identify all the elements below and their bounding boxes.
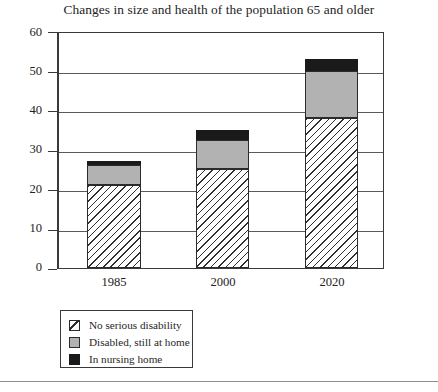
y-axis-tick-mark-40 bbox=[48, 111, 57, 112]
y-axis-tick-mark-50 bbox=[48, 72, 57, 73]
y-axis-tick-mark-30 bbox=[48, 151, 57, 152]
chart-legend: No serious disability Disabled, still at… bbox=[60, 310, 193, 368]
bar-segment-disabled-still-at-home-2020[interactable] bbox=[305, 71, 358, 118]
bar-segment-no-serious-disability-2020[interactable] bbox=[305, 118, 358, 268]
y-axis-tick-label-10: 10 bbox=[2, 221, 42, 236]
y-axis-tick-mark-20 bbox=[48, 190, 57, 191]
legend-item-in-nursing-home[interactable]: In nursing home bbox=[69, 351, 162, 367]
legend-label-no-serious-disability: No serious disability bbox=[89, 319, 182, 331]
bar-stack-2020[interactable] bbox=[305, 59, 358, 268]
y-axis-tick-mark-60 bbox=[48, 32, 57, 33]
gray-swatch-icon bbox=[69, 337, 80, 348]
bar-segment-in-nursing-home-1985[interactable] bbox=[87, 161, 141, 165]
x-axis-tick-label-2020: 2020 bbox=[292, 275, 372, 290]
bar-segment-no-serious-disability-1985[interactable] bbox=[87, 185, 141, 268]
bar-stack-2000[interactable] bbox=[196, 130, 249, 268]
chart-title: Changes in size and health of the popula… bbox=[0, 2, 438, 18]
x-axis-tick-label-1985: 1985 bbox=[74, 275, 154, 290]
y-axis-tick-label-60: 60 bbox=[2, 25, 42, 40]
y-axis-tick-label-30: 30 bbox=[2, 142, 42, 157]
bar-segment-disabled-still-at-home-1985[interactable] bbox=[87, 165, 141, 185]
bar-segment-no-serious-disability-2000[interactable] bbox=[196, 169, 249, 268]
figure-container: Changes in size and health of the popula… bbox=[0, 0, 438, 392]
legend-label-disabled-still-at-home: Disabled, still at home bbox=[89, 336, 190, 348]
legend-label-in-nursing-home: In nursing home bbox=[89, 353, 162, 365]
bar-segment-in-nursing-home-2020[interactable] bbox=[305, 59, 358, 71]
plot-area bbox=[57, 32, 384, 269]
x-axis-tick-label-2000: 2000 bbox=[183, 275, 263, 290]
y-axis-tick-label-0: 0 bbox=[2, 260, 42, 275]
bar-stack-1985[interactable] bbox=[87, 161, 141, 268]
bar-segment-disabled-still-at-home-2000[interactable] bbox=[196, 140, 249, 170]
y-axis-tick-mark-0 bbox=[48, 269, 57, 270]
y-axis-tick-label-50: 50 bbox=[2, 64, 42, 79]
y-axis-tick-label-40: 40 bbox=[2, 103, 42, 118]
y-axis-tick-mark-10 bbox=[48, 230, 57, 231]
legend-item-no-serious-disability[interactable]: No serious disability bbox=[69, 317, 182, 333]
legend-item-disabled-still-at-home[interactable]: Disabled, still at home bbox=[69, 334, 190, 350]
hatch-swatch-icon bbox=[69, 320, 80, 331]
y-axis-tick-label-20: 20 bbox=[2, 182, 42, 197]
black-swatch-icon bbox=[69, 354, 80, 365]
footer-divider bbox=[0, 381, 438, 382]
bar-segment-in-nursing-home-2000[interactable] bbox=[196, 130, 249, 140]
